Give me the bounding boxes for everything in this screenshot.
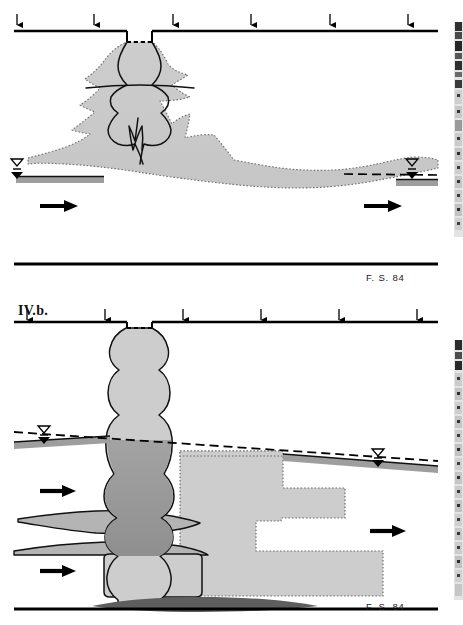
flow-arrow-group <box>40 200 402 212</box>
recharge-arrow-group <box>17 14 408 25</box>
flow-arrow-left <box>40 200 78 212</box>
flow-arrow-left-lower <box>40 565 76 577</box>
ground-surface-line <box>14 322 438 328</box>
recharge-arrow-group <box>27 309 417 320</box>
source-credit-upper: F. S. 84 <box>366 272 405 283</box>
water-table-band-left <box>16 177 104 184</box>
source-credit-lower: F. S. 84 <box>366 601 405 612</box>
plume-body-upper <box>180 451 283 456</box>
figure-id-label: IV.b. <box>18 303 48 319</box>
water-table-band-left <box>14 436 110 449</box>
panel-lower <box>0 296 463 625</box>
scan-artifact-strip-lower <box>454 340 463 600</box>
plume-saturated-core <box>105 440 173 556</box>
scan-artifact-strip-upper <box>454 22 463 237</box>
ground-surface-line <box>14 31 438 42</box>
water-table-band-right <box>283 454 438 473</box>
plume-body <box>28 42 438 188</box>
flow-arrow-left-upper <box>40 485 76 497</box>
panel-upper <box>0 0 463 296</box>
figure-root: IV.b. F. S. 84 F. S. 84 <box>0 0 463 625</box>
water-table-band-right <box>396 180 438 187</box>
flow-arrow-right <box>364 200 402 212</box>
flow-arrow-right <box>370 525 406 537</box>
plume-stepped-tail <box>180 451 383 596</box>
piezometric-dashed-line <box>344 174 438 175</box>
